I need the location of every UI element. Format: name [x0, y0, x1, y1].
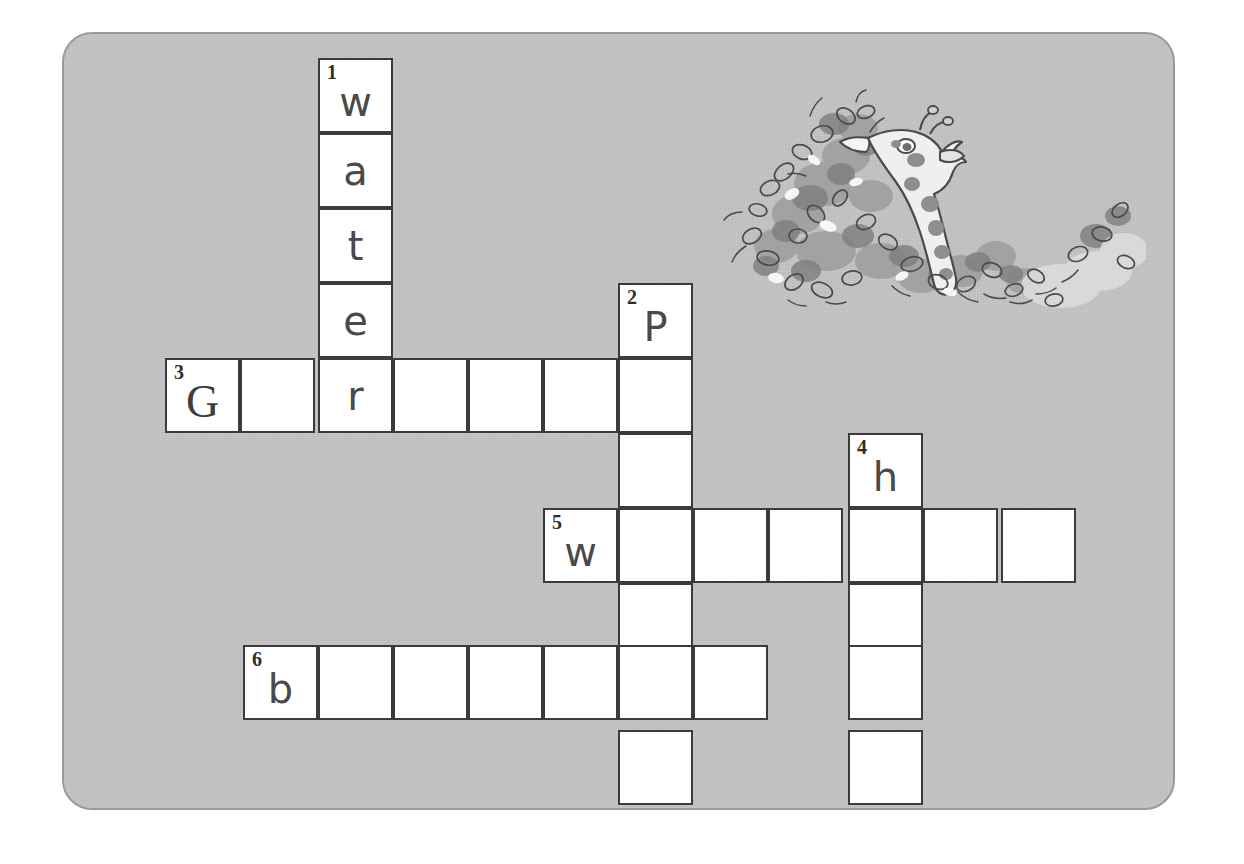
cell-letter: [620, 510, 691, 581]
cell-letter: [320, 647, 391, 718]
cell-letter: [925, 510, 996, 581]
crossword-cell[interactable]: [848, 508, 923, 583]
cell-letter: [850, 510, 921, 581]
crossword-cell[interactable]: [848, 645, 923, 720]
cell-letter: [620, 647, 691, 718]
crossword-grid: 1wate2P3Gr4h5w6b: [0, 0, 1244, 864]
crossword-cell[interactable]: [618, 508, 693, 583]
crossword-cell[interactable]: [240, 358, 315, 433]
cell-letter: [850, 647, 921, 718]
crossword-cell[interactable]: [393, 358, 468, 433]
crossword-cell[interactable]: a: [318, 133, 393, 208]
crossword-cell[interactable]: 3G: [165, 358, 240, 433]
cell-letter: P: [620, 285, 691, 356]
crossword-cell[interactable]: [618, 358, 693, 433]
cell-letter: [470, 647, 541, 718]
cell-letter: [695, 510, 766, 581]
cell-letter: [770, 510, 841, 581]
cell-letter: G: [167, 360, 238, 431]
crossword-cell[interactable]: [693, 645, 768, 720]
crossword-cell[interactable]: [768, 508, 843, 583]
crossword-cell[interactable]: [318, 645, 393, 720]
cell-letter: h: [850, 435, 921, 506]
crossword-cell[interactable]: 6b: [243, 645, 318, 720]
crossword-cell[interactable]: 1w: [318, 58, 393, 133]
cell-letter: [395, 647, 466, 718]
crossword-cell[interactable]: [618, 645, 693, 720]
crossword-cell[interactable]: t: [318, 208, 393, 283]
crossword-cell[interactable]: [468, 645, 543, 720]
crossword-cell[interactable]: [848, 730, 923, 805]
crossword-cell[interactable]: [543, 358, 618, 433]
cell-letter: w: [320, 60, 391, 131]
cell-letter: t: [320, 210, 391, 281]
cell-letter: [620, 732, 691, 803]
cell-letter: [620, 360, 691, 431]
cell-letter: w: [545, 510, 616, 581]
cell-letter: r: [320, 360, 391, 431]
crossword-cell[interactable]: [1001, 508, 1076, 583]
crossword-cell[interactable]: r: [318, 358, 393, 433]
cell-letter: [242, 360, 313, 431]
cell-letter: [695, 647, 766, 718]
crossword-cell[interactable]: [393, 645, 468, 720]
crossword-cell[interactable]: [618, 730, 693, 805]
cell-letter: [545, 647, 616, 718]
cell-letter: b: [245, 647, 316, 718]
cell-letter: [1003, 510, 1074, 581]
crossword-cell[interactable]: 4h: [848, 433, 923, 508]
crossword-cell[interactable]: 5w: [543, 508, 618, 583]
crossword-cell[interactable]: [468, 358, 543, 433]
cell-letter: [620, 435, 691, 506]
cell-letter: a: [320, 135, 391, 206]
cell-letter: [395, 360, 466, 431]
crossword-cell[interactable]: [543, 645, 618, 720]
crossword-cell[interactable]: 2P: [618, 283, 693, 358]
crossword-cell[interactable]: [693, 508, 768, 583]
crossword-cell[interactable]: [923, 508, 998, 583]
cell-letter: e: [320, 285, 391, 356]
crossword-cell[interactable]: e: [318, 283, 393, 358]
cell-letter: [470, 360, 541, 431]
cell-letter: [545, 360, 616, 431]
crossword-cell[interactable]: [618, 433, 693, 508]
cell-letter: [850, 732, 921, 803]
